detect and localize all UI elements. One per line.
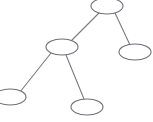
node-leaf-bottom-middle[interactable] [71, 99, 103, 115]
tree-graph [0, 0, 153, 122]
edge-branch-leaf-mid [66, 55, 84, 99]
node-ellipse-leaf-right[interactable] [119, 44, 151, 60]
node-layer [0, 0, 151, 115]
node-ellipse-root[interactable] [91, 0, 123, 14]
node-ellipse-branch[interactable] [46, 39, 78, 55]
node-ellipse-leaf-bottom-middle[interactable] [71, 99, 103, 115]
node-leaf-bottom-left[interactable] [0, 89, 26, 105]
node-ellipse-leaf-bottom-left[interactable] [0, 89, 26, 105]
node-root[interactable] [91, 0, 123, 14]
edge-root-branch [71, 13, 99, 41]
edge-root-leaf-right [115, 13, 130, 45]
edge-layer [20, 13, 130, 99]
edge-branch-leaf-left [20, 53, 51, 92]
diagram-canvas [0, 0, 153, 122]
node-branch[interactable] [46, 39, 78, 55]
node-leaf-right[interactable] [119, 44, 151, 60]
